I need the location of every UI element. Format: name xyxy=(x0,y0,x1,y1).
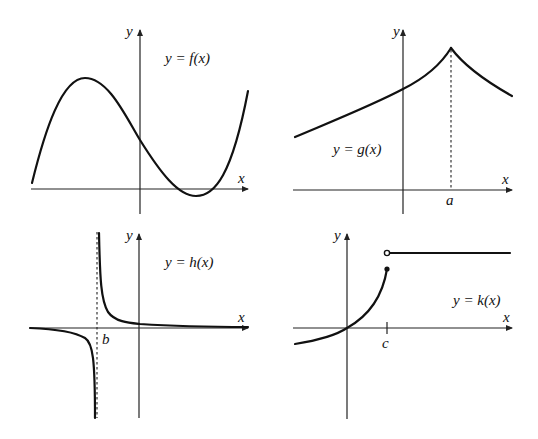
y-axis-label: y xyxy=(391,23,400,39)
panel-f: x y y = f(x) xyxy=(31,23,248,214)
h-curve-right xyxy=(99,233,248,327)
g-curve-left xyxy=(295,48,451,137)
x-axis-label: x xyxy=(501,171,509,187)
point-a-label: a xyxy=(446,192,454,208)
closed-dot xyxy=(384,266,389,271)
equation-label: y = f(x) xyxy=(163,50,210,67)
y-axis-label: y xyxy=(332,227,341,243)
panel-h: x y b y = h(x) xyxy=(30,227,248,418)
equation-label: y = k(x) xyxy=(451,292,501,309)
panel-k: x y c y = k(x) xyxy=(293,227,512,419)
open-circle xyxy=(384,250,389,255)
h-curve-left xyxy=(30,328,95,418)
equation-label: y = g(x) xyxy=(331,141,381,158)
y-axis-label: y xyxy=(124,227,133,243)
function-graphs-figure: x y y = f(x) x y a y = g(x) x y b y = h(… xyxy=(0,0,538,439)
g-curve-right xyxy=(451,48,512,96)
point-b-label: b xyxy=(102,331,110,347)
panel-g: x y a y = g(x) xyxy=(293,23,512,214)
x-axis-label: x xyxy=(237,170,245,186)
y-axis-label: y xyxy=(124,23,133,39)
x-axis-label: x xyxy=(502,309,510,325)
point-c-label: c xyxy=(382,335,389,351)
k-curve xyxy=(295,269,387,344)
equation-label: y = h(x) xyxy=(163,254,213,271)
x-axis-label: x xyxy=(237,309,245,325)
